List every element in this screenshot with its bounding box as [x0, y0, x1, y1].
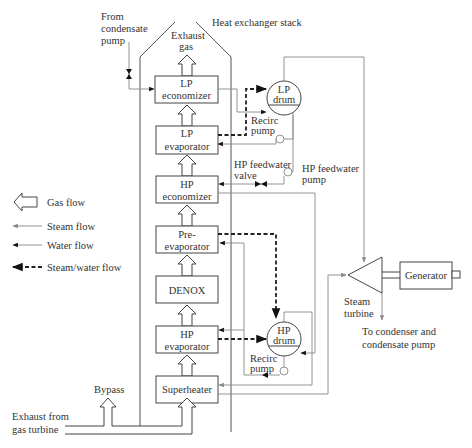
svg-text:drum: drum [273, 94, 295, 105]
svg-text:Steam/water flow: Steam/water flow [47, 262, 122, 273]
legend-steam-water-flow: Steam/water flow [13, 262, 122, 273]
hp-recirc-pump-label-2: pump [250, 363, 274, 374]
hp-feedwater-valve-label-1: HP feedwater [234, 159, 292, 170]
from-condensate-pump-label-3: pump [101, 35, 125, 46]
lp-drum: LP drum [267, 81, 301, 115]
generator: Generator [400, 262, 460, 289]
legend: Gas flow Steam flow Water flow Steam/wat… [13, 193, 122, 273]
to-condenser-label-2: condensate pump [362, 339, 435, 350]
svg-text:evaporator: evaporator [165, 141, 210, 152]
hp-drum: HP drum [267, 322, 301, 356]
shaft [382, 272, 400, 278]
svg-text:drum: drum [273, 335, 295, 346]
svg-text:HP: HP [180, 329, 194, 340]
svg-text:DENOX: DENOX [169, 285, 206, 296]
hp-feedwater-pump-label-1: HP feedwater [302, 163, 360, 174]
hp-evaporator: HP evaporator [156, 326, 218, 353]
legend-steam-flow: Steam flow [13, 221, 96, 232]
bypass-label: Bypass [94, 384, 124, 395]
steam-turbine-label-2: turbine [344, 308, 374, 319]
steam-turbine [348, 257, 382, 293]
svg-text:Superheater: Superheater [162, 384, 213, 395]
to-condenser-label-1: To condenser and [362, 326, 437, 337]
svg-text:Gas flow: Gas flow [47, 197, 86, 208]
hp-economizer: HP economizer [156, 176, 218, 203]
lp-recirc-pump-label-2: pump [251, 125, 275, 136]
hrsg-diagram: From condensate pump Heat exchanger stac… [0, 0, 472, 448]
exhaust-from-gas-turbine-label-1: Exhaust from [12, 411, 69, 422]
svg-text:Water flow: Water flow [47, 240, 94, 251]
svg-text:Pre-: Pre- [178, 229, 196, 240]
svg-text:economizer: economizer [163, 191, 212, 202]
lp-recirc-pump-icon [276, 135, 284, 143]
hp-feedwater-valve-icon [255, 181, 261, 187]
legend-water-flow: Water flow [13, 240, 94, 251]
svg-text:LP: LP [180, 78, 192, 89]
valve-icon [126, 69, 132, 74]
hp-feedwater-pump-label-2: pump [302, 174, 326, 185]
svg-text:Steam flow: Steam flow [47, 221, 96, 232]
svg-text:evaporator: evaporator [165, 241, 210, 252]
from-condensate-pump-label-1: From [101, 11, 124, 22]
svg-text:evaporator: evaporator [165, 341, 210, 352]
svg-text:economizer: economizer [162, 90, 211, 101]
heat-exchanger-stack-label: Heat exchanger stack [212, 17, 303, 28]
svg-text:HP: HP [180, 179, 194, 190]
lp-evaporator: LP evaporator [156, 126, 218, 154]
exhaust-gas-label-1: Exhaust [171, 30, 205, 41]
steam-turbine-label-1: Steam [344, 296, 370, 307]
svg-text:Generator: Generator [405, 270, 447, 281]
denox: DENOX [156, 276, 218, 303]
svg-text:LP: LP [181, 128, 193, 139]
pre-evaporator: Pre- evaporator [156, 226, 218, 253]
exhaust-gas-label-2: gas [179, 41, 193, 52]
lp-economizer: LP economizer [155, 76, 218, 103]
legend-gas-flow: Gas flow [14, 193, 86, 211]
from-condensate-pump-label-2: condensate [101, 23, 148, 34]
gas-flow-arrow-icon [14, 193, 37, 211]
hp-recirc-pump-icon [280, 367, 288, 375]
hp-feedwater-valve-label-2: valve [234, 170, 257, 181]
exhaust-from-gas-turbine-label-2: gas turbine [12, 424, 59, 435]
